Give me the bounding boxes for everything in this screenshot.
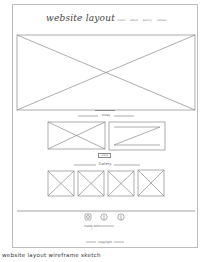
feature-image-placeholder — [48, 122, 105, 149]
hero-image-placeholder — [17, 35, 195, 110]
more-button[interactable]: more — [98, 153, 111, 158]
footer-copyright: copyright — [96, 241, 114, 244]
image-caption: website layout wireframe sketch — [2, 252, 101, 258]
instagram-icon — [85, 214, 91, 220]
facebook-icon — [118, 214, 124, 220]
gallery-thumb-4 — [138, 170, 164, 196]
footer-tagline: made with ♡ — [84, 225, 100, 231]
gallery-thumb-1 — [48, 171, 74, 196]
gallery-section-label: Gallery — [96, 163, 114, 166]
gallery-thumb-3 — [108, 171, 134, 196]
pinterest-icon — [101, 214, 107, 220]
gallery-thumb-2 — [78, 171, 104, 196]
feature-section-label: today — [98, 114, 114, 117]
feature-text-placeholder — [109, 122, 165, 150]
wireframe-drawing — [0, 0, 210, 262]
